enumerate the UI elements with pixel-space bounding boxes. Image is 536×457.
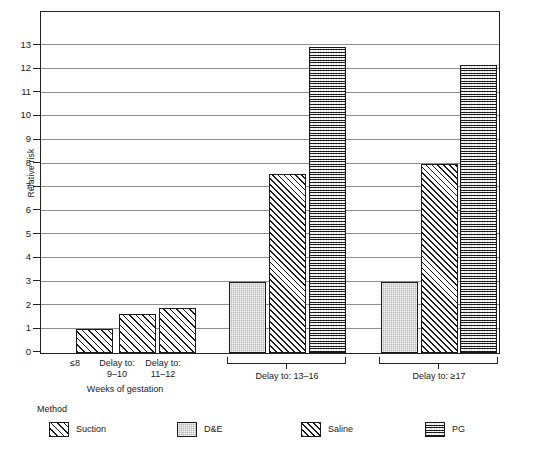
legend: Method Suction D&E Saline PG bbox=[37, 404, 507, 450]
x-label-group-3-line1: Delay to: bbox=[139, 358, 187, 369]
y-tick-mark-12 bbox=[33, 68, 40, 69]
y-tick-label-5: 5 bbox=[9, 229, 31, 239]
group-bracket-4 bbox=[227, 357, 346, 364]
bar-g3-suction bbox=[159, 308, 196, 353]
plot-area bbox=[40, 11, 500, 354]
x-label-group-2-line1: Delay to: bbox=[93, 358, 141, 369]
bar-g2-suction bbox=[119, 314, 156, 353]
y-tick-mark-13 bbox=[33, 44, 40, 45]
bar-g5-pg bbox=[460, 65, 497, 353]
x-label-group-4: Delay to: 13–16 bbox=[241, 371, 333, 382]
legend-swatch-de-icon bbox=[177, 422, 197, 437]
y-tick-mark-3 bbox=[33, 280, 40, 281]
y-tick-label-2: 2 bbox=[9, 300, 31, 310]
y-tick-label-13: 13 bbox=[9, 40, 31, 50]
y-tick-label-4: 4 bbox=[9, 252, 31, 262]
y-tick-label-12: 12 bbox=[9, 63, 31, 73]
x-label-group-5: Delay to: ≥17 bbox=[393, 371, 485, 382]
y-tick-mark-8 bbox=[33, 162, 40, 163]
y-tick-label-6: 6 bbox=[9, 205, 31, 215]
y-tick-label-9: 9 bbox=[9, 134, 31, 144]
legend-swatch-pg-icon bbox=[425, 422, 445, 437]
y-tick-mark-4 bbox=[33, 257, 40, 258]
y-tick-mark-0 bbox=[33, 351, 40, 352]
gridline-13 bbox=[41, 44, 499, 45]
y-tick-mark-6 bbox=[33, 209, 40, 210]
y-tick-label-1: 1 bbox=[9, 323, 31, 333]
gridline-9 bbox=[41, 139, 499, 140]
bar-g4-de bbox=[229, 282, 266, 353]
group-bracket-5 bbox=[379, 357, 498, 364]
y-tick-label-7: 7 bbox=[9, 181, 31, 191]
bar-g5-de bbox=[381, 282, 418, 353]
x-label-group-3-line2: 11–12 bbox=[139, 369, 187, 380]
legend-label-suction: Suction bbox=[76, 424, 106, 434]
y-tick-mark-10 bbox=[33, 115, 40, 116]
y-tick-mark-11 bbox=[33, 91, 40, 92]
y-tick-mark-7 bbox=[33, 186, 40, 187]
y-tick-label-10: 10 bbox=[9, 110, 31, 120]
gridline-11 bbox=[41, 92, 499, 93]
x-axis-title: Weeks of gestation bbox=[60, 384, 190, 394]
bar-g5-saline bbox=[421, 164, 458, 353]
y-tick-mark-1 bbox=[33, 328, 40, 329]
legend-swatch-suction-icon bbox=[49, 422, 69, 437]
y-tick-mark-5 bbox=[33, 233, 40, 234]
legend-label-saline: Saline bbox=[328, 424, 353, 434]
y-tick-label-11: 11 bbox=[9, 87, 31, 97]
gridline-10 bbox=[41, 115, 499, 116]
group-bracket-4-tick bbox=[286, 364, 287, 369]
y-tick-label-8: 8 bbox=[9, 158, 31, 168]
legend-swatch-saline-icon bbox=[301, 422, 321, 437]
y-tick-label-3: 3 bbox=[9, 276, 31, 286]
bar-g4-pg bbox=[309, 47, 346, 353]
y-tick-mark-9 bbox=[33, 139, 40, 140]
legend-title: Method bbox=[37, 404, 67, 414]
legend-label-de: D&E bbox=[204, 424, 223, 434]
bar-g1-suction bbox=[76, 329, 113, 353]
group-bracket-5-tick bbox=[438, 364, 439, 369]
x-label-group-2-line2: 9–10 bbox=[93, 369, 141, 380]
y-tick-label-0: 0 bbox=[9, 347, 31, 357]
y-tick-mark-2 bbox=[33, 304, 40, 305]
bar-g4-saline bbox=[269, 174, 306, 353]
gridline-12 bbox=[41, 68, 499, 69]
x-label-group-1: ≤8 bbox=[54, 358, 96, 369]
legend-label-pg: PG bbox=[452, 424, 465, 434]
